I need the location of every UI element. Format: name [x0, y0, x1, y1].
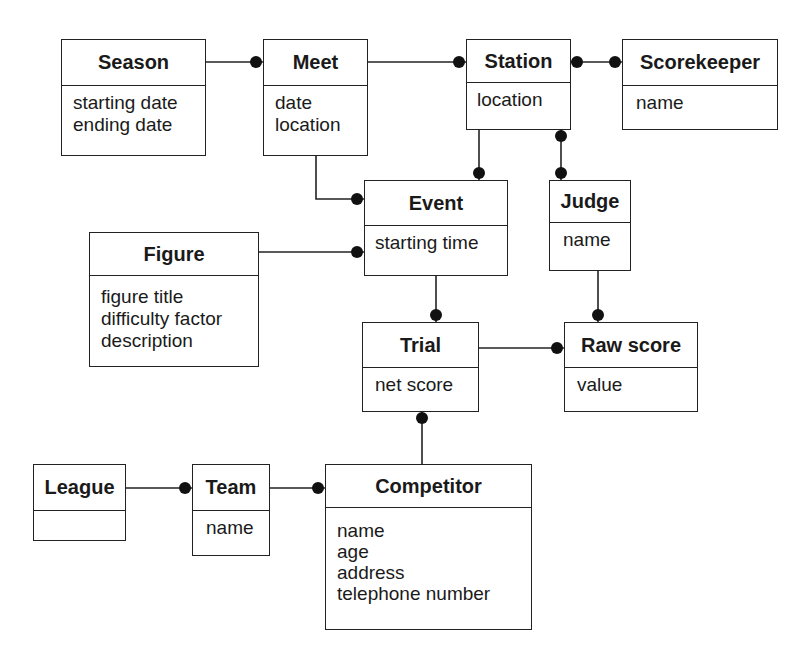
attribute: name — [206, 517, 269, 539]
entity-station: Station location — [466, 39, 571, 130]
entity-attributes: name age address telephone number — [326, 508, 531, 604]
entity-name: Raw score — [565, 323, 697, 368]
entity-name: Event — [365, 181, 507, 226]
entity-name: Scorekeeper — [623, 40, 777, 86]
entity-attributes: net score — [363, 368, 478, 396]
entity-name: Figure — [90, 233, 258, 276]
attribute: name — [563, 229, 630, 251]
attribute: net score — [375, 374, 478, 396]
many-dot — [351, 246, 363, 258]
entity-figure: Figure figure title difficulty factor de… — [89, 232, 259, 367]
attribute: difficulty factor — [101, 308, 258, 330]
attribute: age — [337, 541, 531, 562]
attribute: location — [477, 89, 570, 111]
many-dot — [416, 412, 428, 424]
entity-name: Season — [62, 40, 205, 86]
many-dot — [571, 56, 583, 68]
attribute: value — [577, 374, 697, 396]
many-dot — [555, 167, 567, 179]
entity-league: League — [33, 464, 126, 541]
attribute: starting date — [73, 92, 205, 114]
many-dot — [551, 342, 563, 354]
entity-event: Event starting time — [364, 180, 508, 276]
attribute: name — [337, 520, 531, 541]
entity-scorekeeper: Scorekeeper name — [622, 39, 778, 130]
entity-attributes: figure title difficulty factor descripti… — [90, 276, 258, 352]
attribute: description — [101, 330, 258, 352]
entity-attributes — [34, 511, 125, 517]
entity-name: Meet — [264, 40, 367, 86]
many-dot — [312, 482, 324, 494]
many-dot — [555, 130, 567, 142]
attribute: telephone number — [337, 583, 531, 604]
entity-raw-score: Raw score value — [564, 322, 698, 412]
entity-name: Competitor — [326, 465, 531, 508]
many-dot — [592, 309, 604, 321]
entity-attributes: name — [550, 223, 630, 251]
many-dot — [430, 309, 442, 321]
attribute: date — [275, 92, 367, 114]
many-dot — [473, 167, 485, 179]
many-dot — [179, 482, 191, 494]
entity-team: Team name — [192, 464, 270, 556]
entity-attributes: location — [467, 83, 570, 111]
entity-judge: Judge name — [549, 180, 631, 271]
attribute: figure title — [101, 286, 258, 308]
many-dot — [250, 56, 262, 68]
entity-name: League — [34, 465, 125, 511]
entity-attributes: starting date ending date — [62, 86, 205, 136]
attribute: name — [636, 92, 777, 114]
attribute: location — [275, 114, 367, 136]
entity-attributes: name — [193, 511, 269, 539]
entity-attributes: starting time — [365, 226, 507, 254]
entity-name: Judge — [550, 181, 630, 223]
many-dot — [609, 56, 621, 68]
many-dot — [351, 193, 363, 205]
entity-trial: Trial net score — [362, 322, 479, 412]
entity-attributes: value — [565, 368, 697, 396]
entity-attributes: name — [623, 86, 777, 114]
many-dot — [453, 56, 465, 68]
attribute: address — [337, 562, 531, 583]
entity-season: Season starting date ending date — [61, 39, 206, 156]
entity-name: Station — [467, 40, 570, 83]
entity-competitor: Competitor name age address telephone nu… — [325, 464, 532, 630]
entity-name: Team — [193, 465, 269, 511]
entity-attributes: date location — [264, 86, 367, 136]
attribute: ending date — [73, 114, 205, 136]
attribute: starting time — [375, 232, 507, 254]
entity-name: Trial — [363, 323, 478, 368]
entity-meet: Meet date location — [263, 39, 368, 156]
